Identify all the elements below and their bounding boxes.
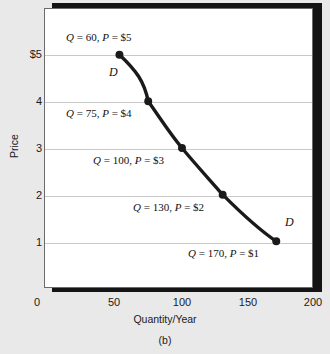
data-point-q170 xyxy=(272,237,280,245)
y-tick-5: $5 xyxy=(8,49,42,60)
annotation-q75-p-value: = $4 xyxy=(112,107,132,119)
y-tick-1: 1 xyxy=(8,237,42,248)
x-tick-0: 0 xyxy=(17,296,57,308)
annotation-q170-q-value: = 170, xyxy=(199,247,227,259)
y-tick-2: 2 xyxy=(8,190,42,201)
x-tick-50: 50 xyxy=(94,296,134,308)
figure-caption: (b) xyxy=(0,334,330,346)
curve-label-d-top: D xyxy=(109,65,118,80)
data-point-q60 xyxy=(115,51,123,59)
demand-curve-figure: D D Q = 60, P = $5 Q = 75, P = $4 Q = 10… xyxy=(0,0,330,354)
data-point-q75 xyxy=(144,97,152,105)
annotation-q60-q-symbol: Q xyxy=(66,31,74,43)
annotation-q75-p-symbol: P xyxy=(102,107,109,119)
x-tick-200: 200 xyxy=(293,296,330,308)
annotation-q100-p-value: = $3 xyxy=(144,154,164,166)
annotation-q130: Q = 130, P = $2 xyxy=(133,201,204,213)
annotation-q60-p-symbol: P xyxy=(102,31,109,43)
annotation-q130-q-value: = 130, xyxy=(144,201,172,213)
annotation-q100-p-symbol: P xyxy=(135,154,142,166)
x-tick-150: 150 xyxy=(228,296,268,308)
curve-label-d-bottom: D xyxy=(285,215,294,230)
annotation-q130-p-value: = $2 xyxy=(184,201,204,213)
plot-area: D D Q = 60, P = $5 Q = 75, P = $4 Q = 10… xyxy=(44,8,313,288)
y-tick-4: 4 xyxy=(8,96,42,107)
annotation-q60-p-value: = $5 xyxy=(112,31,132,43)
annotation-q75-q-symbol: Q xyxy=(66,107,74,119)
data-point-q100 xyxy=(178,144,186,152)
annotation-q60: Q = 60, P = $5 xyxy=(66,31,132,43)
annotation-q100-q-value: = 100, xyxy=(104,154,132,166)
annotation-q170-p-symbol: P xyxy=(230,247,237,259)
annotation-q170: Q = 170, P = $1 xyxy=(188,247,259,259)
demand-curve-line xyxy=(119,55,276,242)
annotation-q75: Q = 75, P = $4 xyxy=(66,107,132,119)
annotation-q100: Q = 100, P = $3 xyxy=(93,154,164,166)
annotation-q170-p-value: = $1 xyxy=(239,247,259,259)
data-point-q130 xyxy=(219,191,227,199)
x-axis-title: Quantity/Year xyxy=(0,313,330,325)
annotation-q75-q-value: = 75, xyxy=(77,107,100,119)
annotation-q100-q-symbol: Q xyxy=(93,154,101,166)
x-tick-100: 100 xyxy=(162,296,202,308)
demand-curve-plot xyxy=(45,9,312,287)
annotation-q170-q-symbol: Q xyxy=(188,247,196,259)
annotation-q130-p-symbol: P xyxy=(175,201,182,213)
y-axis-title: Price xyxy=(8,116,20,176)
annotation-q130-q-symbol: Q xyxy=(133,201,141,213)
annotation-q60-q-value: = 60, xyxy=(77,31,100,43)
